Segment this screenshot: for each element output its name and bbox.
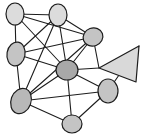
graph-node[interactable] [56, 60, 78, 80]
node-ellipse[interactable] [56, 60, 78, 80]
graph-node[interactable] [6, 3, 24, 25]
graph-node[interactable] [5, 41, 27, 68]
graph-node[interactable] [7, 85, 35, 116]
graph-node[interactable] [98, 79, 118, 103]
network-graph-figure [0, 0, 149, 139]
graph-node[interactable] [49, 4, 67, 26]
node-ellipse[interactable] [6, 3, 24, 25]
node-ellipse[interactable] [5, 41, 27, 68]
graph-canvas [0, 0, 149, 139]
node-ellipse[interactable] [62, 115, 82, 133]
node-ellipse[interactable] [98, 79, 118, 103]
graph-node[interactable] [62, 115, 82, 133]
arrow-marker-icon [99, 46, 139, 82]
node-ellipse[interactable] [49, 4, 67, 26]
node-ellipse[interactable] [7, 85, 35, 116]
arrow-marker-layer [99, 46, 139, 82]
